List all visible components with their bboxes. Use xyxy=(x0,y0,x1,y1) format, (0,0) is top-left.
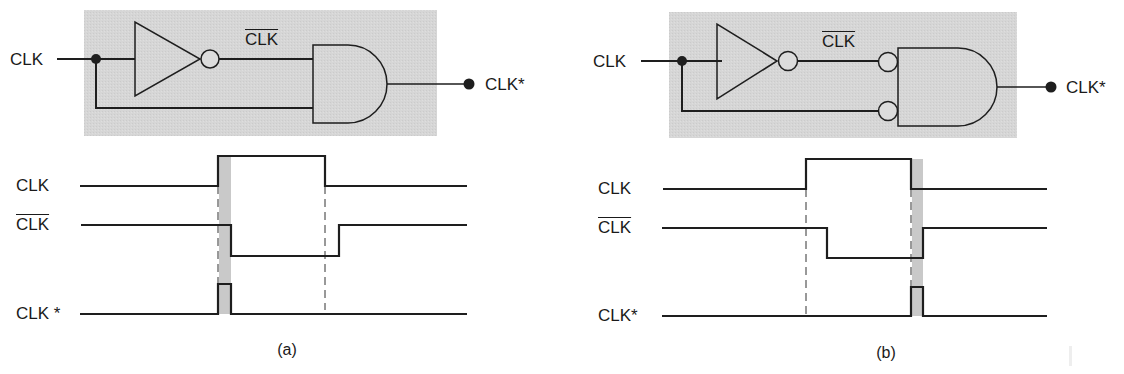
panel-a-timing xyxy=(80,156,467,314)
and-input-bubble-top xyxy=(879,53,898,72)
timing-a-label-clk-star: CLK * xyxy=(16,305,60,322)
waveform-clk-star xyxy=(80,284,467,314)
glitch-highlight xyxy=(912,159,923,316)
output-dot xyxy=(1046,82,1057,93)
output-dot xyxy=(464,79,475,90)
waveform-clk-bar xyxy=(81,225,467,256)
timing-b-label-clk-star: CLK* xyxy=(598,307,638,324)
and-input-bubble-bottom xyxy=(879,102,898,121)
timing-a-label-clk: CLK xyxy=(16,177,49,194)
waveform-clk xyxy=(80,156,467,186)
waveform-clk-star xyxy=(662,287,1047,316)
inverter-bubble xyxy=(779,52,798,71)
timing-a-label-clk-bar: CLK xyxy=(16,216,49,233)
circuit-a-output-label: CLK* xyxy=(485,76,525,93)
glitch-highlight xyxy=(219,156,231,314)
circuit-background xyxy=(84,10,437,136)
diagram-canvas xyxy=(0,0,1124,374)
caption-a: (a) xyxy=(277,342,297,358)
scan-artifact xyxy=(1069,346,1072,366)
caption-b: (b) xyxy=(876,345,896,361)
inverter-bubble xyxy=(201,50,219,68)
circuit-a-inverted-label: CLK xyxy=(245,31,278,48)
panel-b-circuit xyxy=(641,12,1057,138)
circuit-a-input-label: CLK xyxy=(10,51,43,68)
waveform-clk-bar xyxy=(662,228,1047,258)
circuit-background xyxy=(669,12,1017,138)
timing-b-label-clk-bar: CLK xyxy=(598,219,631,236)
panel-a-circuit xyxy=(57,10,475,136)
timing-b-label-clk: CLK xyxy=(598,180,631,197)
circuit-b-input-label: CLK xyxy=(593,53,626,70)
circuit-b-output-label: CLK* xyxy=(1066,79,1106,96)
circuit-b-inverted-label: CLK xyxy=(822,33,855,50)
panel-b-timing xyxy=(662,159,1047,316)
waveform-clk xyxy=(663,159,1047,189)
